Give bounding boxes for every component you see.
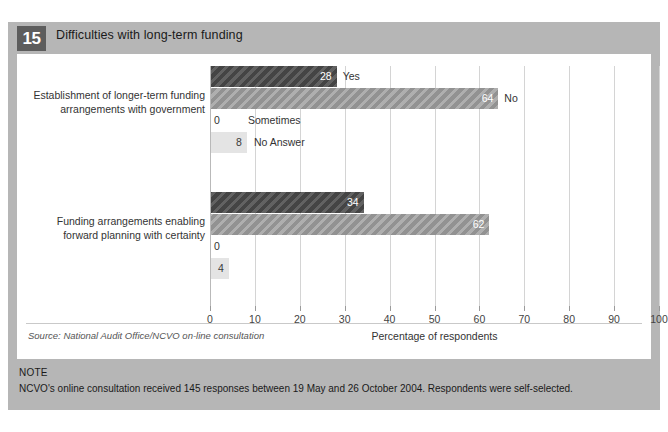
source-text: Source: National Audit Office/NCVO on-li… <box>28 330 264 341</box>
bar-value-no-answer-group-1: 8 <box>236 132 242 153</box>
figure-header: 15 Difficulties with long-term funding <box>8 22 660 54</box>
x-tick-20 <box>300 306 301 311</box>
bar-value-yes-group-2: 34 <box>347 192 359 213</box>
figure-title: Difficulties with long-term funding <box>56 28 243 42</box>
category-label-group-2: Funding arrangements enablingforward pla… <box>20 214 205 242</box>
x-tick-50 <box>435 306 436 311</box>
x-tick-40 <box>390 306 391 311</box>
x-tick-90 <box>614 306 615 311</box>
bar-value-sometimes-group-1: 0 <box>214 110 220 131</box>
gridline-70 <box>524 66 525 306</box>
bar-response-label-no-answer: No Answer <box>254 132 305 153</box>
chart-card: Establishment of longer-term fundingarra… <box>17 54 651 359</box>
bar-value-sometimes-group-2: 0 <box>214 236 220 257</box>
note-block: NOTE NCVO's online consultation received… <box>17 367 651 403</box>
x-tick-0 <box>210 306 211 311</box>
gridline-100 <box>659 66 660 306</box>
bar-no-group-2: 62 <box>211 214 489 235</box>
bar-response-label-no: No <box>504 88 517 109</box>
x-tick-80 <box>569 306 570 311</box>
category-label-group-1: Establishment of longer-term fundingarra… <box>20 88 205 116</box>
category-label-line1: Establishment of longer-term funding <box>20 88 205 102</box>
x-tick-30 <box>345 306 346 311</box>
bar-response-label-sometimes: Sometimes <box>248 110 301 131</box>
bar-no-answer-group-2: 4 <box>211 258 229 279</box>
bar-value-no-group-1: 64 <box>482 88 494 109</box>
bar-no-answer-group-1: 8 <box>211 132 247 153</box>
bar-value-no-answer-group-2: 4 <box>218 258 224 279</box>
note-text: NCVO's online consultation received 145 … <box>19 383 573 394</box>
category-label-column: Establishment of longer-term fundingarra… <box>17 66 205 306</box>
bar-no-group-1: 64 <box>211 88 498 109</box>
x-tick-70 <box>524 306 525 311</box>
x-tick-100 <box>659 306 660 311</box>
category-label-line2: forward planning with certainty <box>20 228 205 242</box>
note-label: NOTE <box>19 367 48 378</box>
plot-area: Percentage of respondents 01020304050607… <box>210 66 659 306</box>
figure-number-badge: 15 <box>17 26 46 51</box>
source-divider <box>26 323 642 324</box>
x-tick-60 <box>479 306 480 311</box>
bar-value-no-group-2: 62 <box>473 214 485 235</box>
category-label-line1: Funding arrangements enabling <box>20 214 205 228</box>
category-label-line2: arrangements with government <box>20 102 205 116</box>
gridline-90 <box>614 66 615 306</box>
x-tick-label-100: 100 <box>650 313 668 325</box>
x-axis-title: Percentage of respondents <box>210 330 659 342</box>
figure-panel: 15 Difficulties with long-term funding E… <box>8 22 660 410</box>
x-tick-10 <box>255 306 256 311</box>
bar-yes-group-1: 28 <box>211 66 337 87</box>
bar-yes-group-2: 34 <box>211 192 364 213</box>
bar-value-yes-group-1: 28 <box>320 66 332 87</box>
gridline-80 <box>569 66 570 306</box>
bar-response-label-yes: Yes <box>343 66 360 87</box>
